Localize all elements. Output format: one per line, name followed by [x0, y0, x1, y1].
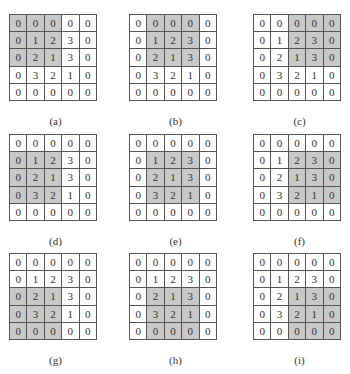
- matrix-cell-highlighted: 0: [10, 187, 27, 204]
- matrix-cell: 1: [271, 152, 288, 169]
- matrix-cell: 0: [62, 254, 79, 271]
- panel-label: (h): [129, 354, 222, 366]
- matrix-cell: 0: [45, 204, 62, 221]
- matrix-cell: 0: [306, 204, 323, 221]
- matrix-cell: 0: [182, 84, 199, 101]
- matrix-cell: 0: [130, 306, 147, 323]
- matrix-cell: 0: [165, 204, 182, 221]
- matrix-cell: 0: [182, 204, 199, 221]
- matrix-cell-highlighted: 0: [182, 323, 199, 340]
- matrix-cell: 0: [200, 169, 217, 186]
- matrix-cell: 1: [271, 32, 288, 49]
- matrix-cell-highlighted: 0: [165, 15, 182, 32]
- matrix-cell-highlighted: 1: [165, 169, 182, 186]
- matrix-cell-highlighted: 2: [27, 288, 44, 305]
- matrix-cell-highlighted: 1: [306, 306, 323, 323]
- matrix-cell: 0: [200, 32, 217, 49]
- panel-label: (b): [129, 115, 222, 127]
- matrix-cell: 0: [254, 254, 271, 271]
- matrix-cell: 0: [80, 187, 97, 204]
- matrix-cell: 0: [10, 135, 27, 152]
- panel-label: (e): [129, 235, 222, 247]
- matrix-cell: 0: [271, 135, 288, 152]
- matrix-cell: 0: [27, 84, 44, 101]
- matrix-cell: 0: [254, 32, 271, 49]
- matrix-cell: 0: [165, 135, 182, 152]
- matrix-cell-highlighted: 2: [45, 32, 62, 49]
- matrix-cell: 0: [324, 271, 341, 288]
- matrix-cell: 0: [182, 135, 199, 152]
- matrix-cell: 0: [130, 254, 147, 271]
- matrix-cell-highlighted: 0: [10, 306, 27, 323]
- matrix-cell-highlighted: 0: [324, 306, 341, 323]
- panel-label: (g): [9, 354, 102, 366]
- matrix-cell: 1: [271, 271, 288, 288]
- matrix-cell: 0: [80, 32, 97, 49]
- matrix-cell: 0: [62, 15, 79, 32]
- matrix-cell: 2: [289, 67, 306, 84]
- matrix-cell-highlighted: 0: [10, 323, 27, 340]
- matrix-cell: 3: [62, 169, 79, 186]
- matrix-cell: 3: [27, 67, 44, 84]
- matrix-cell: 0: [165, 254, 182, 271]
- matrix-cell: 1: [27, 271, 44, 288]
- matrix-cell: 0: [80, 84, 97, 101]
- matrix-cell: 0: [27, 204, 44, 221]
- matrix-cell: 0: [147, 204, 164, 221]
- matrix-cell: 0: [254, 323, 271, 340]
- matrix-cell: 2: [45, 271, 62, 288]
- matrix-cell: 0: [45, 135, 62, 152]
- matrix-cell: 0: [254, 306, 271, 323]
- matrix-cell-highlighted: 0: [10, 169, 27, 186]
- matrix-cell: 0: [130, 67, 147, 84]
- matrix-cell: 3: [62, 49, 79, 66]
- matrix-cell: 2: [289, 271, 306, 288]
- matrix-cell-highlighted: 2: [45, 306, 62, 323]
- matrix-cell: 0: [200, 204, 217, 221]
- matrix-cell: 3: [271, 67, 288, 84]
- matrix-cell: 0: [306, 254, 323, 271]
- matrix-grid: 0000001230021300321000000: [253, 134, 341, 221]
- matrix-cell: 1: [182, 67, 199, 84]
- matrix-grid: 0000001230021300321000000: [129, 134, 217, 221]
- matrix-cell: 1: [62, 67, 79, 84]
- matrix-cell: 0: [62, 204, 79, 221]
- matrix-cell: 0: [254, 288, 271, 305]
- panel-label: (i): [253, 354, 346, 366]
- matrix-cell-highlighted: 3: [306, 152, 323, 169]
- matrix-cell: 0: [130, 84, 147, 101]
- matrix-cell: 0: [130, 323, 147, 340]
- matrix-cell: 0: [27, 254, 44, 271]
- matrix-cell-highlighted: 0: [324, 169, 341, 186]
- matrix-cell-highlighted: 3: [147, 306, 164, 323]
- matrix-cell: 0: [254, 271, 271, 288]
- matrix-cell-highlighted: 1: [182, 187, 199, 204]
- matrix-cell: 0: [254, 84, 271, 101]
- matrix-cell-highlighted: 0: [10, 49, 27, 66]
- matrix-cell-highlighted: 0: [45, 323, 62, 340]
- matrix-cell: 0: [27, 135, 44, 152]
- matrix-cell: 2: [271, 49, 288, 66]
- matrix-cell-highlighted: 2: [289, 32, 306, 49]
- matrix-cell: 1: [62, 187, 79, 204]
- matrix-cell: 0: [289, 254, 306, 271]
- matrix-cell-highlighted: 1: [289, 49, 306, 66]
- matrix-cell: 0: [182, 254, 199, 271]
- matrix-cell-highlighted: 0: [324, 187, 341, 204]
- matrix-cell: 0: [254, 204, 271, 221]
- matrix-cell: 0: [147, 135, 164, 152]
- matrix-cell: 3: [306, 271, 323, 288]
- matrix-cell-highlighted: 0: [27, 15, 44, 32]
- matrix-cell-highlighted: 0: [324, 323, 341, 340]
- matrix-cell: 0: [130, 169, 147, 186]
- matrix-cell-highlighted: 3: [182, 169, 199, 186]
- matrix-grid: 0000001230021300321000000: [129, 14, 217, 101]
- matrix-cell: 0: [80, 67, 97, 84]
- matrix-cell-highlighted: 1: [165, 49, 182, 66]
- matrix-cell: 0: [324, 204, 341, 221]
- matrix-cell: 1: [306, 67, 323, 84]
- matrix-cell-highlighted: 0: [182, 15, 199, 32]
- matrix-cell: 0: [130, 187, 147, 204]
- matrix-cell: 0: [254, 187, 271, 204]
- matrix-cell-highlighted: 3: [182, 49, 199, 66]
